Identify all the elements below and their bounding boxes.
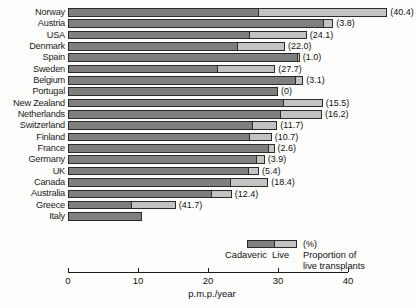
- x-axis: 010203040: [0, 272, 416, 273]
- category-label-greece: Greece: [0, 201, 68, 211]
- bar-track: (1.0): [68, 52, 416, 63]
- bar-segment-cadaveric: [69, 77, 295, 84]
- bar-segment-live: [249, 32, 306, 39]
- chart-plot-area: Norway(40.4)Austria(3.8)USA(24.1)Denmark…: [0, 7, 416, 223]
- stacked-bar: [68, 19, 333, 28]
- axis-tick-label: 10: [133, 275, 144, 286]
- category-label-sweden: Sweden: [0, 65, 68, 75]
- bar-value-label: (0): [281, 86, 292, 97]
- bar-segment-cadaveric: [69, 20, 323, 27]
- category-label-france: France: [0, 144, 68, 154]
- bar-track: (15.5): [68, 98, 416, 109]
- bar-segment-cadaveric: [69, 88, 277, 95]
- bar-value-label: (16.2): [325, 109, 349, 120]
- bar-segment-live: [131, 202, 175, 209]
- bar-track: (3.8): [68, 18, 416, 29]
- category-label-netherlands: Netherlands: [0, 110, 68, 120]
- bar-segment-cadaveric: [69, 145, 268, 152]
- bar-track: (5.4): [68, 166, 416, 177]
- chart-row: Switzerland(11.7): [0, 120, 416, 131]
- bar-value-label: (11.7): [280, 120, 303, 131]
- bar-segment-cadaveric: [69, 168, 248, 175]
- axis-tick-label: 0: [65, 275, 70, 286]
- legend-series-names: CadavericLive: [225, 250, 289, 260]
- chart-row: New Zealand(15.5): [0, 98, 416, 109]
- stacked-bar: [68, 42, 285, 51]
- bar-segment-cadaveric: [69, 179, 230, 186]
- bar-segment-cadaveric: [69, 213, 141, 220]
- axis-tick-label: 20: [203, 275, 214, 286]
- stacked-bar: [68, 87, 278, 96]
- bar-track: (12.4): [68, 189, 416, 200]
- bar-segment-live: [297, 54, 299, 61]
- bar-value-label: (10.7): [275, 132, 299, 143]
- category-label-belgium: Belgium: [0, 76, 68, 86]
- stacked-bar: [68, 31, 307, 40]
- category-label-finland: Finland: [0, 133, 68, 143]
- stacked-bar: [68, 53, 300, 62]
- category-label-norway: Norway: [0, 8, 68, 18]
- bar-segment-live: [248, 168, 258, 175]
- stacked-bar: [68, 190, 232, 199]
- bar-value-label: (18.4): [271, 177, 295, 188]
- bar-segment-live: [283, 100, 322, 107]
- stacked-bar: [68, 133, 272, 142]
- stacked-bar: [68, 212, 142, 221]
- chart-row: USA(24.1): [0, 30, 416, 41]
- stacked-bar: [68, 76, 303, 85]
- bar-segment-live: [295, 77, 302, 84]
- bar-segment-cadaveric: [69, 122, 252, 129]
- chart-row: UK(5.4): [0, 166, 416, 177]
- stacked-bar: [68, 99, 323, 108]
- legend-swatch-cadaveric: [248, 241, 274, 247]
- chart-row: Portugal(0): [0, 86, 416, 97]
- axis-tick-label: 40: [343, 275, 354, 286]
- chart-row: Canada(18.4): [0, 177, 416, 188]
- category-label-germany: Germany: [0, 155, 68, 165]
- bar-track: (22.0): [68, 41, 416, 52]
- transplant-rate-bar-chart: Norway(40.4)Austria(3.8)USA(24.1)Denmark…: [0, 0, 416, 308]
- bar-segment-cadaveric: [69, 54, 297, 61]
- chart-row: Spain(1.0): [0, 52, 416, 63]
- legend-label-cadaveric: Cadaveric: [225, 250, 272, 260]
- bar-track: (41.7): [68, 200, 416, 211]
- chart-row: Norway(40.4): [0, 7, 416, 18]
- bar-segment-cadaveric: [69, 43, 237, 50]
- bar-segment-cadaveric: [69, 156, 256, 163]
- bar-value-label: (40.4): [390, 7, 414, 18]
- stacked-bar: [68, 8, 387, 17]
- axis-tick: [208, 268, 209, 272]
- bar-value-label: (3.8): [336, 18, 355, 29]
- bar-segment-live: [211, 191, 231, 198]
- bar-segment-cadaveric: [69, 111, 280, 118]
- stacked-bar: [68, 201, 176, 210]
- chart-row: Finland(10.7): [0, 132, 416, 143]
- bar-segment-cadaveric: [69, 66, 217, 73]
- legend-swatch: [247, 240, 297, 248]
- bar-value-label: (27.7): [278, 64, 302, 75]
- bar-value-label: (3.1): [306, 75, 325, 86]
- axis-tick: [138, 268, 139, 272]
- bar-segment-live: [258, 9, 386, 16]
- axis-tick: [278, 268, 279, 272]
- bar-track: (2.6): [68, 143, 416, 154]
- bar-segment-cadaveric: [69, 100, 283, 107]
- bar-value-label: (1.0): [303, 52, 322, 63]
- stacked-bar: [68, 65, 275, 74]
- axis-tick: [68, 268, 69, 272]
- bar-track: (3.1): [68, 75, 416, 86]
- bar-value-label: (3.9): [268, 154, 287, 165]
- legend-percent-label: (%): [303, 239, 317, 249]
- bar-value-label: (22.0): [288, 41, 312, 52]
- chart-row: Austria(3.8): [0, 18, 416, 29]
- category-label-new-zealand: New Zealand: [0, 99, 68, 109]
- legend-swatch-live: [274, 241, 296, 247]
- stacked-bar: [68, 155, 265, 164]
- chart-row: Belgium(3.1): [0, 75, 416, 86]
- axis-line: [68, 272, 348, 273]
- bar-value-label: (12.4): [235, 189, 259, 200]
- bar-segment-live: [280, 111, 321, 118]
- bar-segment-live: [249, 134, 271, 141]
- bar-segment-live: [217, 66, 274, 73]
- bar-segment-cadaveric: [69, 191, 211, 198]
